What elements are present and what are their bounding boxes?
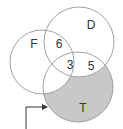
arrow-line [26,107,44,129]
region-d-t-value: 5 [88,59,95,73]
set-d-label: D [87,18,96,32]
venn-diagram: F D T 6 3 5 [0,0,123,129]
pointer-arrow [26,104,48,129]
region-f-d-value: 6 [56,37,63,51]
set-t-label: T [79,101,87,115]
set-f-label: F [30,37,37,51]
region-f-d-t-value: 3 [67,58,74,72]
arrow-head-icon [42,104,48,110]
